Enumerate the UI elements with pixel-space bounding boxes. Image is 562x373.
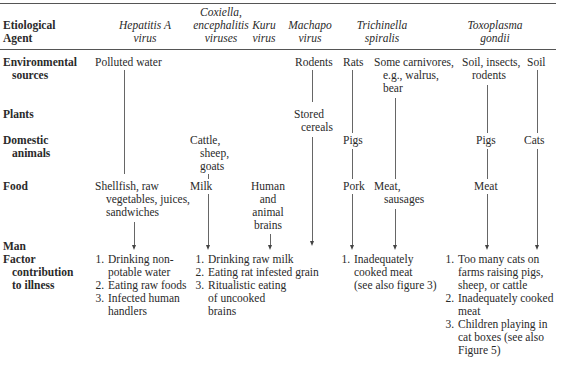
flow-line (124, 70, 125, 174)
cell-milk: Milk (190, 180, 212, 193)
agent-hepatitis-a: Hepatitis A virus (100, 19, 190, 45)
flow-line (352, 194, 353, 246)
agent-machapo: Machapo virus (282, 19, 338, 45)
flow-line (352, 70, 353, 133)
cell-cats: Cats (524, 134, 544, 147)
cell-polluted-water: Polluted water (95, 56, 162, 69)
factor-list-trichinella: 1.Inadequately cooked meat (see also fig… (336, 253, 437, 292)
flow-line (312, 137, 313, 242)
flow-line (487, 85, 488, 133)
flow-line (395, 209, 396, 246)
row-domestic: Domestic animals (3, 134, 50, 160)
flow-line (537, 70, 538, 133)
flow-line (312, 70, 313, 102)
flow-line (134, 222, 135, 246)
flow-line (487, 149, 488, 179)
arrow-down-icon (206, 245, 210, 250)
cell-cattle: Cattle, sheep, goats (190, 134, 229, 173)
agent-toxoplasma: Toxoplasma gondii (440, 19, 550, 45)
cell-pigs-toxo: Pigs (476, 134, 496, 147)
arrow-down-icon (393, 245, 397, 250)
cell-soil: Soil (527, 56, 546, 69)
agent-kuru: Kuru virus (244, 19, 284, 45)
row-environmental: Environmental sources (3, 56, 77, 82)
row-man: Man (3, 240, 26, 253)
flow-line (487, 194, 488, 246)
header-rule (0, 49, 556, 50)
arrow-down-icon (535, 245, 539, 250)
cell-rodents: Rodents (295, 56, 333, 69)
factor-list-toxoplasma: 1.Too many cats on farms raising pigs, s… (440, 253, 553, 357)
flow-line (537, 149, 538, 246)
top-rule (0, 3, 556, 4)
row-plants: Plants (3, 108, 34, 121)
row-food: Food (3, 180, 28, 193)
factor-list-hepatitis: 1.Drinking non- potable water 2.Eating r… (90, 253, 187, 318)
cell-shellfish: Shellfish, raw vegetables, juices, sandw… (95, 180, 190, 219)
cell-pigs-trich: Pigs (343, 134, 363, 147)
cell-stored-cereals: Stored cereals (294, 108, 333, 134)
cell-carnivores: Some carnivores, e.g., walrus, bear (374, 56, 454, 95)
cell-pork: Pork (343, 180, 365, 193)
cell-meat-toxo: Meat (474, 180, 498, 193)
cell-soil-insects: Soil, insects, rodents (462, 56, 520, 82)
row-factor: Factor contribution to illness (3, 253, 73, 292)
flow-line (352, 149, 353, 179)
flow-line (395, 98, 396, 179)
header-row-label: Etiological Agent (3, 19, 55, 45)
factor-list-middle: 1.Drinking raw milk 2.Eating rat infeste… (190, 253, 319, 318)
agent-trichinella: Trichinella spiralis (340, 19, 424, 45)
cell-meat-sausages: Meat, sausages (374, 180, 424, 206)
cell-brains: Human and animal brains (238, 180, 298, 232)
cell-rats: Rats (343, 56, 363, 69)
arrow-down-icon (132, 245, 136, 250)
arrow-down-icon (350, 245, 354, 250)
flow-line (208, 194, 209, 246)
arrow-down-icon (268, 245, 272, 250)
arrow-down-icon (485, 245, 489, 250)
arrow-down-icon (310, 241, 314, 246)
flow-line (208, 174, 209, 179)
